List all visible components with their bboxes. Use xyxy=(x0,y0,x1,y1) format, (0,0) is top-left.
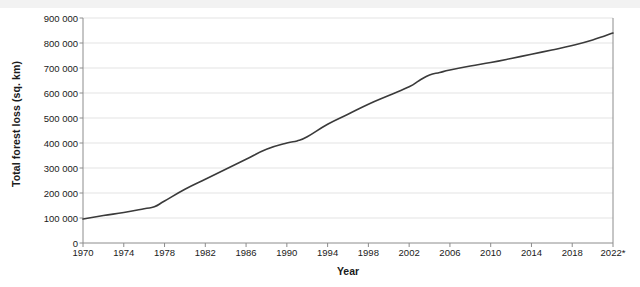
chart-figure: Total forest loss (sq. km) Year 0100 000… xyxy=(0,0,640,287)
plot-area xyxy=(0,0,640,287)
data-series-line xyxy=(83,33,613,219)
